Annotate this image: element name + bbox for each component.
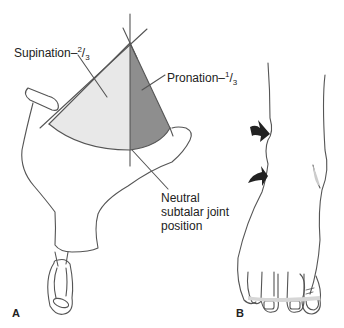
supination-fraction-den: 3	[85, 53, 89, 62]
pronation-fraction-num: 1	[225, 70, 229, 79]
pronation-label: Pronation–1/3	[167, 68, 237, 90]
supination-text: Supination–	[14, 46, 77, 60]
supination-label: Supination–2/3	[14, 43, 90, 65]
panel-b-drawing	[238, 63, 327, 314]
panel-label-a: A	[12, 307, 20, 319]
neutral-subtalar-label: Neutral subtalar joint position	[161, 191, 229, 233]
panel-label-b: B	[236, 307, 244, 319]
neutral-line-2: subtalar joint	[161, 205, 229, 219]
pronation-text: Pronation–	[167, 71, 225, 85]
pronation-fraction-den: 3	[233, 78, 237, 87]
neutral-line-1: Neutral	[161, 191, 229, 205]
pressure-arrows	[248, 120, 270, 186]
supination-fraction-num: 2	[77, 45, 81, 54]
neutral-line-3: position	[161, 219, 229, 233]
pronation-wedge	[130, 43, 170, 150]
arrow-icon-upper	[250, 120, 270, 142]
